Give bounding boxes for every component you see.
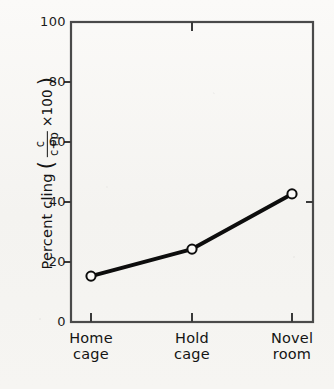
y-tick-label-100: 100 [32,15,66,28]
y-axis-title: Percent cling ( c c+p ×100 ) [34,48,60,298]
formula-close-paren: ) [36,77,57,85]
formula-numerator: c [34,139,46,150]
x-axis-ticks [91,313,292,322]
data-point-novel-room [287,189,296,198]
x-category-label-novel-room: Novel room [271,330,313,362]
x-category-novel-room-line2: room [271,346,313,362]
x-category-home-cage-line2: cage [69,346,113,362]
y-tick-label-0: 0 [32,315,66,328]
data-point-home-cage [86,272,95,281]
y-axis-title-text: Percent cling [39,173,55,269]
formula-multiplier: ×100 [39,89,55,127]
x-axis-category-labels: Home cage Hold cage Novel room [0,330,334,380]
formula-fraction: c c+p [34,131,60,157]
x-category-home-cage-line1: Home [69,330,113,346]
x-category-label-hold-cage: Hold cage [174,330,210,362]
x-category-novel-room-line1: Novel [271,330,313,346]
formula-denominator: c+p [48,131,60,157]
data-point-hold-cage [187,245,196,254]
x-category-label-home-cage: Home cage [69,330,113,362]
x-category-hold-cage-line1: Hold [175,330,209,346]
formula-open-paren: ( [36,161,57,169]
plot-frame [71,22,313,322]
figure-canvas: 100 80 60 40 20 0 Percent cling ( c c+p … [0,0,334,389]
data-line-percent-cling [91,194,292,276]
x-category-hold-cage-line2: cage [174,346,210,362]
